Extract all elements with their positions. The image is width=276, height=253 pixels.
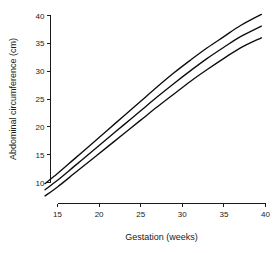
x-axis-tick-label: 30 xyxy=(178,210,187,219)
centile-curves xyxy=(45,14,261,195)
x-axis-title: Gestation (weeks) xyxy=(125,232,198,242)
x-axis-tick-label: 35 xyxy=(219,210,228,219)
x-axis-tick-label: 40 xyxy=(261,210,270,219)
x-axis-tick-label: 20 xyxy=(95,210,104,219)
y-axis-title: Abdominal circumference (cm) xyxy=(8,38,18,160)
centile-line-upper-centile xyxy=(45,14,261,183)
chart-canvas: 10152025303540 152025303540 Gestation (w… xyxy=(0,0,276,253)
y-axis-tick-label: 15 xyxy=(36,151,45,160)
x-axis-tick-label: 25 xyxy=(136,210,145,219)
y-axis-tick-label: 40 xyxy=(36,12,45,21)
y-axis-tick-label: 35 xyxy=(36,39,45,48)
x-axis: 152025303540 xyxy=(53,204,270,219)
centile-line-median-centile xyxy=(45,26,261,190)
y-axis-tick-label: 10 xyxy=(36,179,45,188)
x-axis-tick-label: 15 xyxy=(53,210,62,219)
y-axis-tick-label: 30 xyxy=(36,67,45,76)
y-axis: 10152025303540 xyxy=(36,12,51,188)
centile-line-lower-centile xyxy=(45,38,261,196)
y-axis-tick-label: 25 xyxy=(36,95,45,104)
y-axis-tick-label: 20 xyxy=(36,123,45,132)
growth-chart-figure: 10152025303540 152025303540 Gestation (w… xyxy=(0,0,276,253)
